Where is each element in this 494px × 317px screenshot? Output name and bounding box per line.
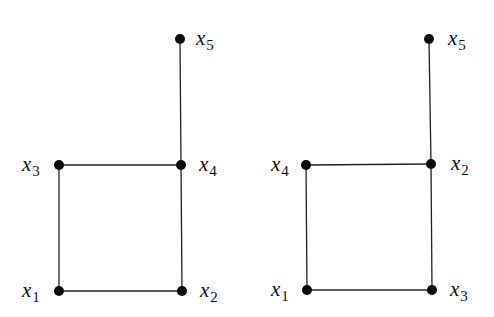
right-graph-edge-x3-x2 <box>431 164 432 290</box>
right-graph-node-x3 <box>427 285 437 295</box>
right-graph-label-x5: x5 <box>447 26 466 53</box>
right-graph-node-x5 <box>424 34 434 44</box>
right-graph-label-x2: x2 <box>450 151 469 178</box>
right-graph-label-x3: x3 <box>449 277 468 304</box>
left-graph-label-x1: x1 <box>21 278 40 305</box>
left-graph-node-x3 <box>54 160 64 170</box>
left-graph-edge-x4-x5 <box>180 39 181 165</box>
right-graph-node-x4 <box>301 160 311 170</box>
left-graph-label-x4: x4 <box>198 152 217 179</box>
right-graph-edge-x2-x5 <box>429 39 431 164</box>
hasse-diagrams: x1x2x3x4x5x1x3x4x2x5 <box>0 0 494 317</box>
left-graph-label-x5: x5 <box>195 26 214 53</box>
left-graph-label-x3: x3 <box>21 152 40 179</box>
right-graph-edge-x1-x4 <box>306 165 307 290</box>
left-graph-node-x2 <box>177 286 187 296</box>
left-graph-label-x2: x2 <box>199 278 218 305</box>
left-graph-node-x1 <box>54 286 64 296</box>
left-graph-node-x4 <box>176 160 186 170</box>
edges-layer <box>59 39 432 291</box>
left-graph-node-x5 <box>175 34 185 44</box>
left-graph-edge-x2-x4 <box>181 165 182 291</box>
right-graph-label-x4: x4 <box>270 152 289 179</box>
right-graph-edge-x4-x2 <box>306 164 431 165</box>
right-graph-label-x1: x1 <box>270 277 289 304</box>
right-graph-node-x1 <box>302 285 312 295</box>
right-graph-node-x2 <box>426 159 436 169</box>
